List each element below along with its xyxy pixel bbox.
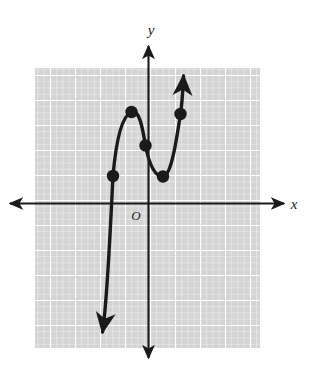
curve-point: [107, 170, 119, 182]
graph-figure: x y O: [0, 0, 315, 367]
x-axis-label: x: [290, 196, 298, 212]
curve-point: [125, 106, 137, 118]
curve-point: [174, 108, 186, 120]
y-axis-label: y: [146, 22, 155, 38]
curve-point: [139, 139, 151, 151]
origin-label: O: [131, 208, 141, 223]
coordinate-plane-svg: x y O: [0, 0, 315, 367]
curve-point: [157, 170, 169, 182]
